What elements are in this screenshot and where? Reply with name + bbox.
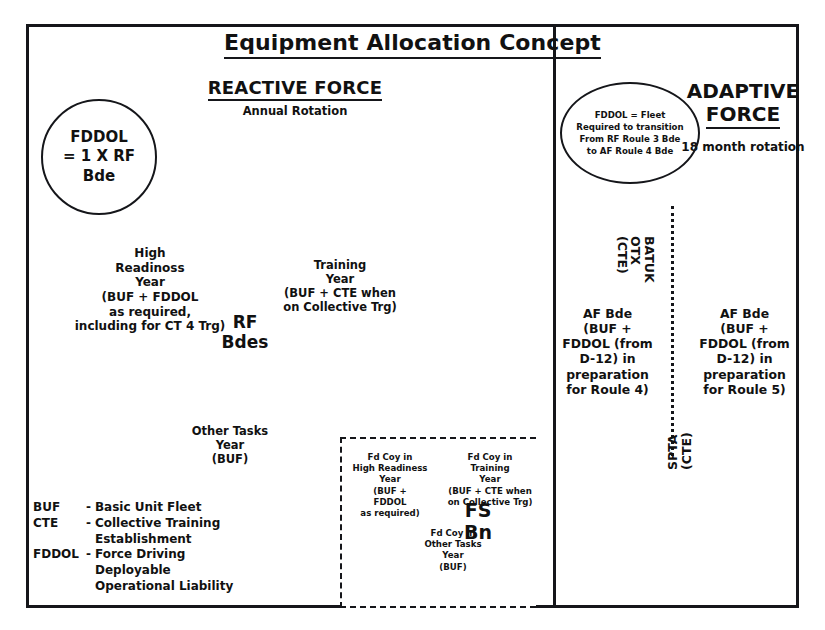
spta-cte-label: SPTA (CTE) xyxy=(666,432,693,470)
legend: BUF - Basic Unit Fleet CTE - Collective … xyxy=(33,500,238,595)
diagram-canvas: Equipment Allocation Concept REACTIVE FO… xyxy=(0,0,825,630)
batuk-line2: OTX xyxy=(629,236,643,283)
af-centre-dotted-line xyxy=(671,206,674,456)
legend-definition: Basic Unit Fleet xyxy=(95,500,233,516)
batuk-line1: BATUK xyxy=(643,236,657,283)
batuk-otx-cte-label: BATUK OTX (CTE) xyxy=(616,236,657,283)
fddol-transition-text: FDDOL = FleetRequired to transitionFrom … xyxy=(576,109,683,158)
stage-other-tasks-label: Other TasksYear(BUF) xyxy=(160,424,300,466)
legend-dash: - xyxy=(86,516,95,548)
reactive-force-heading-text: REACTIVE FORCE xyxy=(208,77,383,101)
fddol-circle: FDDOL= 1 X RFBde xyxy=(41,99,157,215)
spta-line1: SPTA xyxy=(666,432,680,470)
fddol-circle-text: FDDOL= 1 X RFBde xyxy=(63,128,135,187)
legend-row: CTE - Collective TrainingEstablishment xyxy=(33,516,233,548)
legend-abbr: BUF xyxy=(33,500,86,516)
legend-row: FDDOL - Force DrivingDeployableOperation… xyxy=(33,547,233,594)
reactive-force-subheading: Annual Rotation xyxy=(180,104,410,118)
legend-abbr: CTE xyxy=(33,516,86,548)
adaptive-force-heading-line2: FORCE xyxy=(706,103,780,129)
fs-stage-high-readiness-label: Fd Coy inHigh ReadinessYear(BUF +FDDOLas… xyxy=(344,452,436,519)
rf-bdes-label: RFBdes xyxy=(200,312,290,352)
fddol-transition-ellipse: FDDOL = FleetRequired to transitionFrom … xyxy=(560,82,700,184)
legend-row: BUF - Basic Unit Fleet xyxy=(33,500,233,516)
reactive-force-heading: REACTIVE FORCE xyxy=(180,77,410,98)
fs-stage-training-label: Fd Coy inTrainingYear(BUF + CTE whenon C… xyxy=(440,452,540,508)
af-bde-roule5-label: AF Bde(BUF +FDDOL (fromD-12) inpreparati… xyxy=(682,306,807,397)
fs-stage-other-tasks-label: Fd Coy inOther TasksYear(BUF) xyxy=(410,528,496,573)
batuk-line3: (CTE) xyxy=(616,236,630,283)
page-title: Equipment Allocation Concept xyxy=(0,30,825,55)
legend-dash: - xyxy=(86,500,95,516)
legend-definition: Collective TrainingEstablishment xyxy=(95,516,233,548)
page-title-text: Equipment Allocation Concept xyxy=(224,30,601,59)
af-bde-roule4-label: AF Bde(BUF +FDDOL (fromD-12) inpreparati… xyxy=(545,306,670,397)
stage-training-label: TrainingYear(BUF + CTE whenon Collective… xyxy=(270,258,410,314)
adaptive-force-heading-line1: ADAPTIVE xyxy=(668,80,818,103)
legend-abbr: FDDOL xyxy=(33,547,86,594)
legend-definition: Force DrivingDeployableOperational Liabi… xyxy=(95,547,233,594)
legend-dash: - xyxy=(86,547,95,594)
spta-line2: (CTE) xyxy=(680,432,694,470)
